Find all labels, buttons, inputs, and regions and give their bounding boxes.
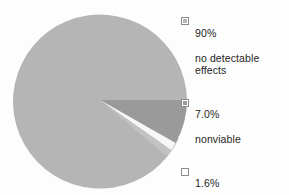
legend-swatch-postembryonic-phenotypes — [181, 168, 189, 176]
pie-chart-plot-area — [0, 0, 195, 195]
legend-item-no-detectable-effects[interactable]: 90% no detectable effects — [181, 14, 289, 90]
pie-chart-svg — [0, 0, 195, 195]
legend-text-no-detectable-effects: 90% no detectable effects — [195, 14, 259, 90]
legend-label-no-detectable-effects: no detectable effects — [195, 52, 259, 77]
legend-text-nonviable: 7.0% nonviable — [195, 96, 241, 159]
legend-percent-no-detectable-effects: 90% — [195, 27, 259, 40]
legend-percent-nonviable: 7.0% — [195, 108, 241, 121]
legend-swatch-no-detectable-effects — [181, 17, 189, 25]
legend-item-postembryonic-phenotypes[interactable]: 1.6% postembryonic phenotypes — [181, 165, 289, 195]
legend-label-nonviable: nonviable — [195, 133, 241, 146]
legend-swatch-nonviable — [181, 99, 189, 107]
pie-chart-figure: 90% no detectable effects 7.0% nonviable… — [0, 0, 289, 195]
legend-item-nonviable[interactable]: 7.0% nonviable — [181, 96, 289, 159]
chart-legend: 90% no detectable effects 7.0% nonviable… — [181, 14, 289, 195]
legend-text-postembryonic-phenotypes: 1.6% postembryonic phenotypes — [195, 165, 265, 195]
legend-percent-postembryonic-phenotypes: 1.6% — [195, 177, 265, 190]
